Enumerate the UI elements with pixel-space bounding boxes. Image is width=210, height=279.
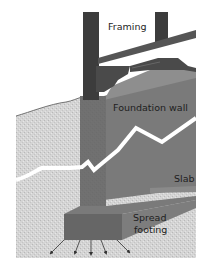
framing-label: Framing (108, 21, 146, 32)
spread-footing-label-line2: footing (134, 224, 167, 235)
foundation-wall-label: Foundation wall (113, 102, 188, 113)
foundation-diagram: Framing Foundation wall Slab Spread foot… (0, 0, 210, 279)
slab-label: Slab (174, 173, 195, 184)
spread-footing-label-line1: Spread (133, 212, 166, 223)
